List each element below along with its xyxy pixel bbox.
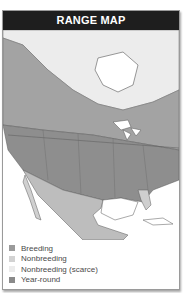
breeding-swatch-icon [9,245,15,251]
legend-item-nonbreeding-scarce: Nonbreeding (scarce) [9,264,98,275]
nonbreeding-swatch-icon [9,256,15,262]
legend-label: Breeding [21,244,53,253]
legend-item-breeding: Breeding [9,243,98,254]
year-round-swatch-icon [9,277,15,283]
range-map-card: RANGE MAP [2,10,180,290]
range-map-title: RANGE MAP [3,11,179,30]
legend-label: Nonbreeding [21,254,67,263]
legend-label: Nonbreeding (scarce) [21,265,98,274]
legend-item-year-round: Year-round [9,275,98,286]
legend-item-nonbreeding: Nonbreeding [9,254,98,265]
nonbreeding-scarce-swatch-icon [9,266,15,272]
legend-label: Year-round [21,275,60,284]
range-map-legend: Breeding Nonbreeding Nonbreeding (scarce… [9,243,98,285]
north-america-map [3,30,179,240]
range-map [3,30,179,240]
